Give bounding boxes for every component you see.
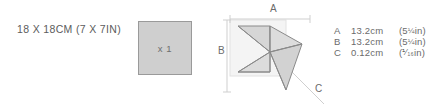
measurement-table: A 13.2cm (5¼in) B 13.2cm (5¼in) C 0.12cm… — [334, 26, 426, 58]
measurement-imperial-prefix: (5 — [399, 25, 408, 36]
measurement-imperial-suffix: in) — [414, 47, 425, 58]
measurement-imperial-prefix: (5 — [399, 36, 408, 47]
measurement-imperial-suffix: in) — [415, 25, 426, 36]
dimension-label-c: C — [315, 83, 323, 94]
measurement-metric: 0.12cm — [351, 48, 399, 59]
paper-size-label: 18 X 18CM (7 X 7IN) — [17, 23, 121, 35]
measurement-imperial: (⅟₁₆in) — [399, 48, 425, 59]
dimension-label-a: A — [270, 3, 277, 14]
paper-swatch: x 1 — [138, 21, 192, 75]
paper-quantity-label: x 1 — [139, 43, 191, 54]
measurement-key: C — [334, 48, 351, 59]
measurement-row: C 0.12cm (⅟₁₆in) — [334, 48, 426, 59]
measurement-key: B — [334, 37, 351, 48]
measurement-imperial-fraction: ⅟₁₆ — [402, 48, 414, 57]
measurement-imperial-suffix: in) — [415, 36, 426, 47]
measurement-imperial-fraction: ¼ — [408, 37, 415, 46]
measurement-imperial-fraction: ¼ — [408, 26, 415, 35]
measurement-row: B 13.2cm (5¼in) — [334, 37, 426, 48]
measurement-metric: 13.2cm — [351, 37, 399, 48]
dimension-label-b: B — [218, 45, 225, 56]
